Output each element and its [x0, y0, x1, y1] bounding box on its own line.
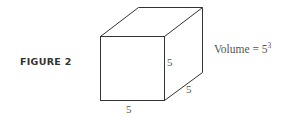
edge-label-depth: 5: [186, 83, 192, 95]
volume-formula: Volume = 53: [214, 43, 271, 55]
volume-text: Volume = 5: [214, 43, 268, 55]
cube-top-face: [101, 8, 203, 37]
cube-diagram: 5 5 5: [0, 0, 290, 119]
volume-exponent: 3: [268, 41, 272, 50]
edge-label-height: 5: [167, 56, 173, 68]
cube-front-face: [101, 37, 165, 101]
edge-label-width: 5: [126, 103, 132, 115]
